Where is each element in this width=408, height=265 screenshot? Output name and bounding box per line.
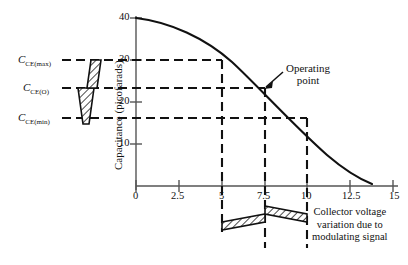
y-axis-title: Capacitance (picofarads) (112, 60, 124, 170)
operating-point-callout-line2: point (286, 74, 330, 86)
x-tick-10: 10 (301, 190, 312, 202)
x-tick-15: 15 (389, 190, 400, 202)
label-c-ce-zero-subscript: CE(O) (30, 88, 49, 96)
operating-point-callout-line1: Operating (286, 62, 330, 74)
operating-point-arrow (264, 72, 283, 89)
x-tick-5: 5 (219, 190, 224, 202)
label-c-ce-zero: CCE(O) (23, 81, 49, 97)
x-tick-7p5: 7.5 (257, 190, 270, 202)
operating-point-callout: Operating point (286, 62, 330, 87)
x-tick-12p5: 12.5 (342, 190, 360, 202)
collector-voltage-variation-waveform (222, 206, 307, 230)
caption-line3: modulating signal (312, 231, 388, 244)
label-c-ce-max: CCE(max) (18, 53, 51, 69)
label-c-ce-min-subscript: CE(min) (25, 118, 50, 126)
label-c-ce-max-subscript: CE(max) (25, 60, 51, 68)
caption-line1: Collector voltage (312, 206, 388, 219)
x-tick-0: 0 (133, 190, 138, 202)
y-axis (130, 16, 142, 190)
label-c-ce-min: CCE(min) (18, 111, 50, 127)
capacitance-vs-collector-voltage-figure: 40 30 20 10 0 2.5 5 7.5 10 12.5 15 Capac… (0, 0, 408, 265)
capacitance-variation-waveform (78, 60, 101, 124)
caption-line2: variation due to (312, 219, 388, 232)
y-tick-40: 40 (119, 11, 130, 23)
modulating-signal-caption: Collector voltage variation due to modul… (312, 206, 388, 244)
x-tick-2p5: 2.5 (171, 190, 184, 202)
capacitance-curve (136, 18, 372, 184)
